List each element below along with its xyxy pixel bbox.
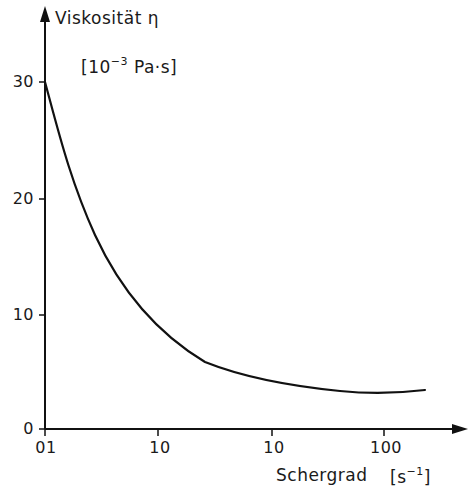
y-unit-suffix: Pa·s] [128,57,177,77]
x-axis-arrow-icon [452,424,468,434]
x-tick-label-10b: 10 [263,438,284,457]
viscosity-curve [45,82,425,393]
x-axis-title-text: Schergrad [276,465,368,485]
x-tick-label-10a: 10 [149,438,170,457]
x-tick-label-100: 100 [370,438,402,457]
y-tick-label-10: 10 [0,305,34,324]
y-unit-prefix: [10 [81,57,111,77]
x-axis-unit: [s−1] [390,465,431,487]
y-axis-title: Viskosität η [55,8,159,28]
x-tick-label-0-1: 01 [35,438,56,457]
y-tick-label-30: 30 [0,72,34,91]
y-tick-label-0: 0 [0,419,34,438]
y-axis-arrow-icon [40,6,50,22]
x-unit-prefix: [s [390,467,407,487]
y-unit-exponent: −3 [111,55,128,68]
x-unit-suffix: ] [424,467,431,487]
x-axis-title: Schergrad [276,465,368,485]
x-unit-exponent: −1 [407,465,424,478]
y-tick-label-20: 20 [0,189,34,208]
viscosity-chart [0,0,476,501]
y-axis-unit: [10−3 Pa·s] [81,55,177,77]
x-ticks [45,429,384,436]
y-axis-title-text: Viskosität η [55,8,159,28]
